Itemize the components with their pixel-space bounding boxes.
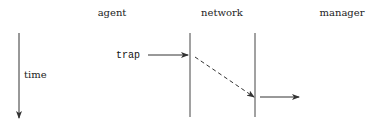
manager-label: manager: [320, 7, 365, 18]
network-label: network: [201, 7, 244, 18]
transit-dashed-arrow: [195, 57, 254, 97]
sequence-diagram: agent network manager time trap: [0, 0, 367, 127]
agent-label: agent: [98, 7, 127, 18]
time-label: time: [24, 69, 47, 80]
trap-label: trap: [116, 50, 140, 61]
